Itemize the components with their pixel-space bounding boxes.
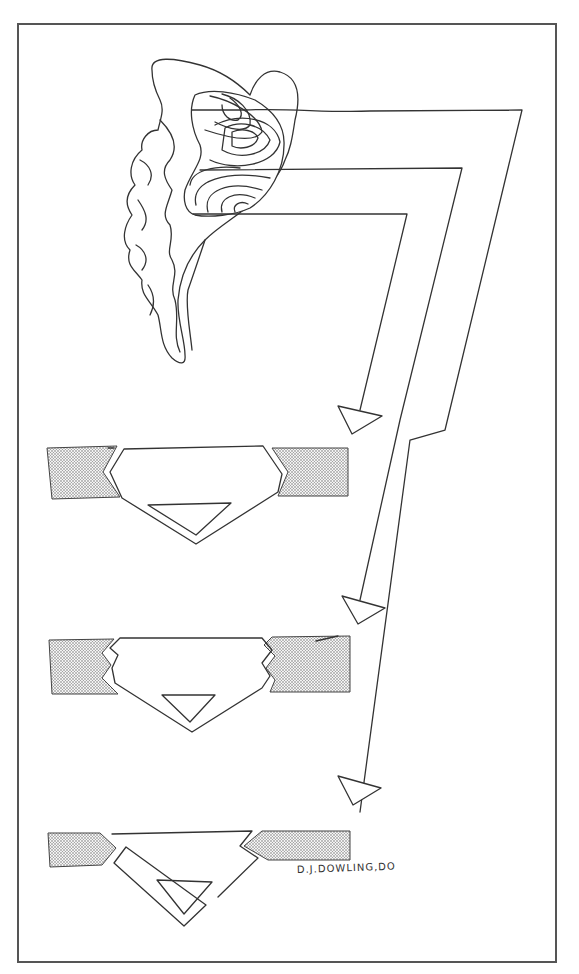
panel-2: [49, 636, 350, 732]
panel-3: [48, 831, 350, 926]
diagram-canvas: D.J.DOWLING,DO: [0, 0, 579, 974]
panel-1: [47, 446, 348, 544]
artist-signature: D.J.DOWLING,DO: [297, 861, 396, 875]
arrowhead-3: [338, 776, 381, 805]
leader-lines: [192, 110, 522, 812]
arrowhead-2: [342, 596, 385, 624]
